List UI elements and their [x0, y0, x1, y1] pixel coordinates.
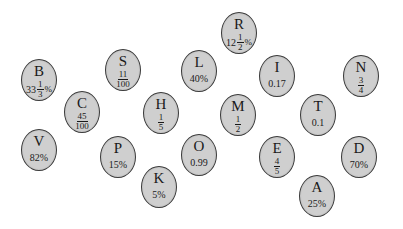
bubble-value: 40% — [190, 73, 208, 84]
fraction-denominator: 2 — [236, 125, 241, 134]
bubble-c: C45100 — [64, 91, 100, 133]
percent-sign: % — [245, 37, 253, 48]
bubble-value: 11100 — [116, 70, 130, 89]
bubble-m: M12 — [220, 94, 256, 136]
fraction-denominator: 2 — [238, 43, 243, 52]
bubble-value: 45 — [274, 157, 281, 176]
bubble-value: 5% — [152, 189, 165, 200]
bubble-letter: E — [272, 141, 281, 156]
bubble-letter: N — [356, 60, 367, 75]
bubble-i: I0.17 — [259, 55, 295, 97]
bubble-value: 3313% — [26, 80, 52, 99]
fraction-denominator: 4 — [359, 86, 364, 95]
bubble-d: D70% — [341, 136, 377, 178]
bubble-letter: L — [194, 55, 203, 70]
bubble-letter: H — [156, 97, 167, 112]
bubble-letter: P — [114, 141, 122, 156]
bubble-value: 0.1 — [312, 117, 325, 128]
bubble-value: 15 — [158, 113, 165, 132]
bubble-value: 1212% — [226, 33, 252, 52]
bubble-value: 12 — [235, 115, 242, 134]
fraction: 12 — [235, 115, 242, 134]
bubble-value: 34 — [358, 76, 365, 95]
bubble-value: 15% — [109, 159, 127, 170]
fraction: 34 — [358, 76, 365, 95]
bubble-letter: R — [234, 17, 244, 32]
fraction: 15 — [158, 113, 165, 132]
fraction: 13 — [37, 80, 44, 99]
fraction-denominator: 5 — [275, 167, 280, 176]
bubble-letter: B — [34, 64, 44, 79]
bubble-letter: C — [77, 96, 87, 111]
bubble-value: 0.17 — [268, 78, 286, 89]
bubble-l: L40% — [181, 50, 217, 92]
bubble-letter: A — [312, 180, 323, 195]
bubble-value: 45100 — [75, 112, 89, 131]
bubble-letter: I — [275, 60, 280, 75]
percent-sign: % — [45, 84, 53, 95]
bubble-letter: V — [34, 134, 45, 149]
bubble-letter: D — [354, 141, 365, 156]
bubble-t: T0.1 — [300, 94, 336, 136]
bubble-v: V82% — [21, 129, 57, 171]
whole-number: 33 — [26, 84, 36, 95]
bubble-o: O0.99 — [181, 134, 217, 176]
bubble-k: K5% — [141, 166, 177, 208]
bubble-r: R1212% — [221, 12, 257, 54]
bubble-diagram: B3313%S11100L40%R1212%I0.17N34C45100H15M… — [0, 0, 403, 229]
bubble-e: E45 — [259, 136, 295, 178]
bubble-value: 70% — [350, 159, 368, 170]
whole-number: 12 — [226, 37, 236, 48]
bubble-n: N34 — [343, 55, 379, 97]
fraction: 45100 — [75, 112, 89, 131]
fraction: 12 — [237, 33, 244, 52]
bubble-letter: O — [194, 139, 205, 154]
fraction: 45 — [274, 157, 281, 176]
bubble-value: 82% — [30, 152, 48, 163]
bubble-letter: K — [154, 171, 165, 186]
fraction: 11100 — [116, 70, 130, 89]
bubble-b: B3313% — [21, 59, 57, 101]
bubble-h: H15 — [143, 92, 179, 134]
bubble-letter: M — [231, 99, 244, 114]
bubble-value: 25% — [308, 198, 326, 209]
bubble-p: P15% — [100, 136, 136, 178]
fraction-denominator: 5 — [159, 123, 164, 132]
bubble-a: A25% — [299, 175, 335, 217]
fraction-denominator: 3 — [38, 90, 43, 99]
fraction-denominator: 100 — [75, 122, 89, 131]
bubble-value: 0.99 — [190, 157, 208, 168]
bubble-s: S11100 — [105, 49, 141, 91]
bubble-letter: S — [119, 54, 127, 69]
fraction-denominator: 100 — [116, 80, 130, 89]
bubble-letter: T — [313, 99, 322, 114]
